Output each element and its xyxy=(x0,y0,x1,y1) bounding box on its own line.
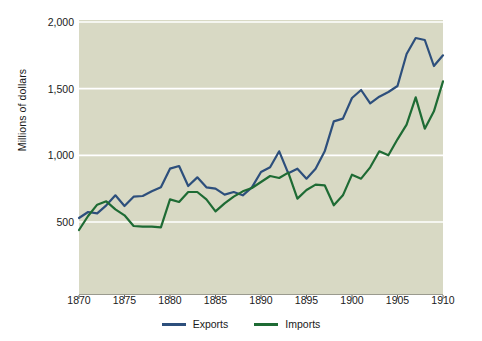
chart-figure: Millions of dollars 5001,0001,5002,000 1… xyxy=(0,0,482,341)
y-tick-label: 500 xyxy=(30,216,74,228)
y-tick-label: 1,500 xyxy=(30,83,74,95)
legend-label: Imports xyxy=(285,318,320,330)
legend-item-imports[interactable]: Imports xyxy=(254,318,320,330)
plot-background xyxy=(79,20,443,294)
x-axis-ticks: 187018751880188518901895190019051910 xyxy=(0,294,482,310)
legend-item-exports[interactable]: Exports xyxy=(162,318,229,330)
y-tick-label: 2,000 xyxy=(30,16,74,28)
chart-legend: ExportsImports xyxy=(0,315,482,333)
x-tick-label: 1910 xyxy=(413,294,473,306)
legend-swatch-exports xyxy=(162,323,186,326)
legend-label: Exports xyxy=(193,318,229,330)
legend-swatch-imports xyxy=(254,323,278,326)
y-axis-ticks: 5001,0001,5002,000 xyxy=(30,0,74,341)
y-tick-label: 1,000 xyxy=(30,149,74,161)
